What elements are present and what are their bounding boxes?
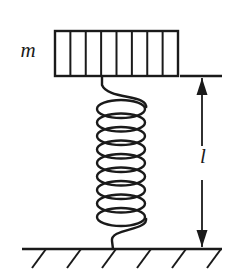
ground-hatch (32, 249, 46, 268)
length-label: l (200, 144, 206, 168)
dimension-arrowhead-up (197, 78, 208, 95)
dimension-arrowhead-down (197, 230, 208, 247)
ground-hatch (172, 249, 186, 268)
ground-hatch (137, 249, 151, 268)
ground-hatch (67, 249, 81, 268)
physics-figure: m l (0, 0, 245, 280)
mass-label: m (20, 38, 35, 62)
ground-hatch (102, 249, 116, 268)
spring-coil (97, 208, 145, 226)
figure-canvas: m l (0, 0, 245, 280)
ground-hatch-marks (32, 249, 221, 268)
ground-hatch (207, 249, 221, 268)
mass-block-dividers (70, 31, 162, 76)
spring-coils (97, 100, 145, 226)
